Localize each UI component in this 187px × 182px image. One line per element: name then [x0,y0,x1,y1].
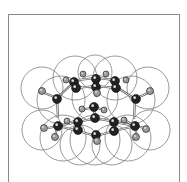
atom-highlight [113,85,116,88]
heavy-atom [92,75,101,84]
atom-highlight [93,132,96,135]
heavy-atom [54,122,63,131]
light-atom [94,138,101,145]
atom-highlight [53,135,55,137]
atom-highlight [80,107,82,109]
light-atom [63,77,69,83]
atom-highlight [112,78,115,81]
light-atom [80,71,86,77]
light-atom [64,118,70,124]
atom-highlight [132,123,135,126]
light-atom [41,125,48,132]
light-atom [123,77,129,83]
atom-highlight [133,96,136,99]
atom-highlight [148,89,150,91]
heavy-atom [90,103,99,112]
atom-highlight [144,127,146,129]
light-atom [39,88,46,95]
atom-highlight [81,72,83,74]
light-atom [94,90,101,97]
heavy-atom [72,84,81,93]
molecule-diagram [0,0,187,182]
atom-highlight [93,76,96,79]
atom-highlight [134,135,136,137]
atoms [39,71,154,145]
atom-highlight [92,115,95,118]
light-atom [52,134,59,141]
atom-highlight [91,104,94,107]
atom-highlight [95,139,97,141]
atom-highlight [95,91,97,93]
atom-highlight [102,108,104,110]
atom-highlight [73,85,76,88]
atom-highlight [75,127,78,130]
atom-highlight [75,119,78,122]
light-atom [133,134,140,141]
atom-highlight [111,128,114,131]
atom-highlight [42,126,44,128]
heavy-atom [132,95,141,104]
atom-highlight [71,79,74,82]
heavy-atom [74,126,83,135]
light-atom [121,117,127,123]
light-atom [147,88,154,95]
atom-highlight [55,123,58,126]
light-atom [143,126,150,133]
light-atom [101,107,107,113]
heavy-atom [110,118,119,127]
light-atom [103,71,109,77]
atom-highlight [54,96,57,99]
atom-highlight [122,118,124,120]
atom-highlight [64,78,66,80]
heavy-atom [53,95,62,104]
atom-highlight [124,78,126,80]
heavy-atom [74,118,83,127]
light-atom [79,106,85,112]
heavy-atom [110,127,119,136]
atom-highlight [104,72,106,74]
heavy-atom [112,84,121,93]
heavy-atom [91,114,100,123]
heavy-atom [131,122,140,131]
atom-highlight [93,84,96,87]
atom-highlight [40,89,42,91]
atom-highlight [111,119,114,122]
atom-highlight [65,119,67,121]
